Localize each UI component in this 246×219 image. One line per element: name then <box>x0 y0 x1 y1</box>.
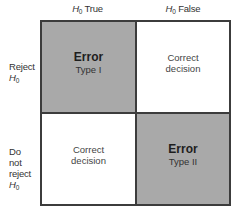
cell-correct-decision-not-reject: Correct decision <box>42 114 135 204</box>
cell-type-ii-error: Error Type II <box>137 114 229 204</box>
cell-type-i-error: Error Type I <box>42 22 135 112</box>
h0-subscript: 0 <box>16 184 19 191</box>
column-header-h0-true: H0 True <box>40 3 135 15</box>
horizontal-divider <box>42 112 229 114</box>
error-title: Error <box>74 51 103 64</box>
error-type: Type I <box>76 64 102 75</box>
row-label-line: Do <box>9 146 31 157</box>
row-label-line: Reject <box>9 61 35 72</box>
h0-subscript: 0 <box>16 77 19 84</box>
column-label: False <box>176 3 201 14</box>
row-label-line: reject <box>9 168 31 179</box>
h0-symbol: H <box>72 3 79 14</box>
row-header-do-not-reject: Do not reject H0 <box>9 146 31 193</box>
h0-symbol: H <box>9 72 16 83</box>
cell-correct-decision-reject: Correct decision <box>137 22 229 112</box>
decision-matrix: Error Type I Correct decision Correct de… <box>40 20 231 206</box>
row-header-reject: Reject H0 <box>9 61 35 86</box>
correct-decision-text: Correct decision <box>153 52 213 74</box>
error-title: Error <box>168 143 197 156</box>
correct-decision-text: Correct decision <box>59 144 119 166</box>
column-label: True <box>82 3 103 14</box>
row-label-line: not <box>9 157 31 168</box>
h0-symbol: H <box>9 179 16 190</box>
error-type: Type II <box>169 156 198 167</box>
column-header-h0-false: H0 False <box>135 3 231 15</box>
